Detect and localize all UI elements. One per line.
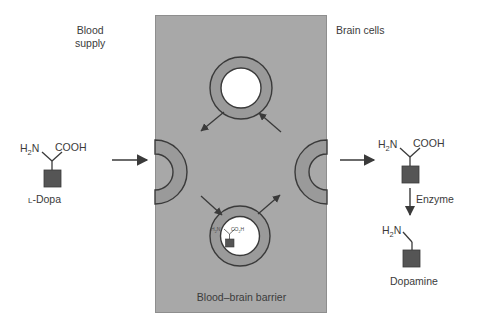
left-molecule-bonds [42, 152, 62, 171]
product-molecule-bonds [403, 232, 412, 250]
transport-cycle-arrows [201, 112, 281, 215]
product-molecule-catechol-square [403, 250, 420, 267]
left-molecule-acid-label: COOH [55, 141, 87, 153]
carrier-amine-n: N [217, 226, 221, 232]
product-amine-h: H [382, 224, 390, 236]
right-pocket-transporter [295, 140, 327, 204]
carrier-acid-h: H [241, 226, 245, 232]
right-amine-n: N [390, 138, 398, 150]
top-empty-carrier [210, 57, 272, 119]
product-amine-n: N [394, 224, 402, 236]
arrow-right-to-top [259, 113, 281, 132]
diagram-canvas: Bloodsupply Brain cells Blood–brain barr… [0, 0, 481, 326]
right-molecule-acid-label: COOH [413, 137, 445, 149]
right-amine-h: H [378, 138, 386, 150]
carrier-molecule-amine-label: H2N [211, 226, 220, 234]
left-amine-h: H [20, 142, 28, 154]
arrow-left-to-bottom [201, 196, 222, 215]
arrow-bottom-to-right [258, 195, 280, 214]
left-molecule-amine-label: H2N [20, 142, 39, 157]
enzyme-label: Enzyme [416, 193, 454, 205]
product-molecule-amine-label: H2N [382, 224, 401, 239]
right-molecule-catechol-square [402, 166, 419, 183]
l-dopa-caption: L-Dopa [28, 193, 61, 205]
dopamine-caption: Dopamine [390, 275, 438, 287]
arrow-top-to-left [201, 112, 224, 131]
left-amine-n: N [32, 142, 40, 154]
left-molecule-catechol-square [44, 170, 61, 187]
left-pocket-transporter [155, 140, 187, 204]
right-molecule-amine-label: H2N [378, 138, 397, 153]
carrier-acid-co: CO [231, 226, 239, 232]
bottom-loaded-carrier [210, 206, 270, 266]
l-dopa-caption-rest: -Dopa [32, 193, 61, 205]
carrier-molecule-acid-label: CO2H [231, 226, 244, 234]
right-molecule-bonds [400, 148, 420, 167]
carrier-bound-molecule-ring-square [226, 239, 235, 247]
